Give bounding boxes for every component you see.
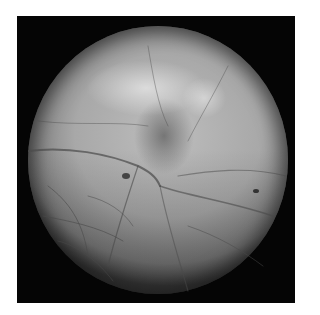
lesion-spot: [253, 189, 259, 193]
lesion-spot: [122, 173, 130, 179]
retinal-vessels: [28, 26, 288, 294]
